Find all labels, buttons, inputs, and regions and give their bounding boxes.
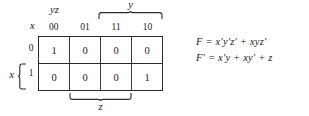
kmap-brace-left-x <box>18 63 26 90</box>
kmap-column-header-01: 01 <box>69 20 100 34</box>
kmap-brace-top-y <box>98 11 163 19</box>
brace-bottom-icon <box>69 93 132 101</box>
kmap-variable-label-yz: yz <box>50 4 59 16</box>
kmap-column-header-10: 10 <box>132 20 163 34</box>
kmap-brace-label-y: y <box>98 0 163 10</box>
brace-left-icon <box>18 63 26 90</box>
kmap-column-header-11: 11 <box>101 20 132 34</box>
equation-f: F = x′y′z′ + xyz′ <box>196 34 306 50</box>
kmap-row: 1 0 0 0 <box>39 37 162 63</box>
boolean-equations: F = x′y′z′ + xyz′ F′ = x′y + xy′ + z <box>196 34 306 66</box>
kmap-column-headers: 00 01 11 10 <box>38 20 163 34</box>
kmap-brace-label-z: z <box>69 101 132 112</box>
kmap-cell: 1 <box>131 64 162 90</box>
kmap-brace-label-x-row: x <box>6 69 17 80</box>
kmap-cell: 0 <box>100 37 131 63</box>
kmap-cell: 1 <box>39 37 69 63</box>
kmap-cell: 0 <box>100 64 131 90</box>
kmap-cell: 0 <box>39 64 69 90</box>
kmap-row-header-0: 0 <box>26 43 36 53</box>
karnaugh-map-figure: yz x 00 01 11 10 0 1 1 0 0 0 0 0 0 1 y <box>0 0 180 116</box>
kmap-brace-bottom-z <box>69 93 132 101</box>
kmap-cell: 0 <box>69 37 100 63</box>
brace-top-icon <box>98 11 163 19</box>
kmap-column-header-00: 00 <box>38 20 69 34</box>
kmap-row-header-1: 1 <box>26 68 36 78</box>
kmap-grid: 1 0 0 0 0 0 0 1 <box>38 36 163 91</box>
kmap-cell: 0 <box>69 64 100 90</box>
kmap-row: 0 0 0 1 <box>39 63 162 90</box>
kmap-variable-label-x: x <box>30 20 35 32</box>
equation-f-complement: F′ = x′y + xy′ + z <box>196 50 306 66</box>
kmap-cell: 0 <box>131 37 162 63</box>
